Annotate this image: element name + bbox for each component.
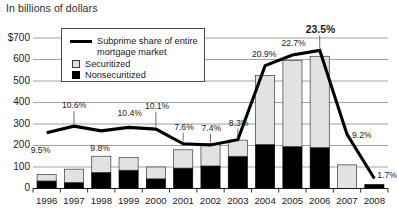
y-axis-tick-label: 200 (0, 139, 30, 150)
chart-legend: Subprime share of entire mortgage market… (61, 28, 205, 82)
x-axis-tick-label: 1997 (59, 195, 89, 206)
y-axis-tick-label: 500 (0, 75, 30, 86)
x-axis-tick-label: 2002 (196, 195, 226, 206)
bar-segment-securitized (283, 61, 302, 147)
bar-segment-nonsecuritized (37, 181, 56, 189)
bar-segment-nonsecuritized (310, 148, 329, 189)
line-value-label: 7.4% (202, 123, 222, 133)
legend-line-label-2: mortgage market (97, 47, 166, 58)
x-axis-tick-label: 1996 (32, 195, 62, 206)
securitized-swatch-icon (72, 60, 80, 68)
legend-line-label-1: Subprime share of entire (97, 36, 198, 47)
y-axis-tick-label: 600 (0, 53, 30, 64)
bar-segment-securitized (146, 167, 165, 179)
bar-segment-nonsecuritized (92, 172, 111, 188)
bar-segment-nonsecuritized (256, 144, 275, 188)
line-value-label: 9.8% (90, 143, 110, 153)
bar-segment-nonsecuritized (174, 168, 193, 188)
bar-segment-nonsecuritized (365, 185, 384, 189)
nonsecuritized-swatch-icon (72, 71, 80, 79)
line-value-label: 1.7% (377, 170, 397, 180)
legend-line-label-2-row: mortgage market (97, 47, 166, 58)
legend-nonsecuritized-label: Nonsecuritized (85, 70, 146, 81)
bar-segment-securitized (119, 157, 138, 170)
x-axis-tick-label: 2006 (305, 195, 335, 206)
bar-segment-securitized (37, 175, 56, 181)
x-axis-tick-label: 2008 (359, 195, 389, 206)
line-value-label: 9.5% (31, 145, 51, 155)
legend-item-line: Subprime share of entire (70, 36, 198, 47)
bar-segment-nonsecuritized (119, 170, 138, 188)
x-axis-ticks (33, 189, 388, 193)
x-axis-tick-label: 2003 (223, 195, 253, 206)
line-value-label: 7.6% (174, 122, 194, 132)
line-value-label: 9.2% (352, 130, 372, 140)
x-axis-tick-label: 2004 (250, 195, 280, 206)
x-axis-tick-label: 2005 (277, 195, 307, 206)
line-value-label: 10.6% (62, 100, 86, 110)
bar-segment-securitized (201, 143, 220, 166)
line-swatch-icon (70, 40, 92, 44)
bar-segment-securitized (174, 150, 193, 168)
y-axis-tick-label: 0 (0, 182, 30, 193)
line-value-label: 20.9% (252, 49, 276, 59)
line-value-label: 10.1% (145, 101, 169, 111)
line-value-label: 22.7% (281, 38, 305, 48)
x-axis-tick-label: 2007 (332, 195, 362, 206)
legend-securitized-label: Securitized (85, 59, 130, 70)
bar-segment-securitized (337, 165, 356, 189)
x-axis-tick-label: 1998 (86, 195, 116, 206)
legend-item-securitized: Securitized (72, 59, 130, 70)
y-axis-tick-label: 100 (0, 161, 30, 172)
line-value-label: 10.4% (118, 108, 142, 118)
bar-segment-nonsecuritized (228, 156, 247, 188)
y-axis-tick-label: $700 (0, 32, 30, 43)
x-axis-tick-label: 2001 (168, 195, 198, 206)
line-value-label: 8.3% (229, 118, 249, 128)
y-axis-tick-label: 300 (0, 118, 30, 129)
bar-segment-nonsecuritized (201, 166, 220, 189)
x-axis-tick-label: 1999 (114, 195, 144, 206)
bar-segment-securitized (64, 169, 83, 182)
x-axis-tick-label: 2000 (141, 195, 171, 206)
legend-item-nonsecuritized: Nonsecuritized (72, 70, 146, 81)
bar-segment-nonsecuritized (64, 182, 83, 188)
bar-segment-securitized (92, 156, 111, 172)
bar-segment-nonsecuritized (283, 147, 302, 189)
line-value-label: 23.5% (306, 24, 335, 35)
y-axis-tick-label: 400 (0, 96, 30, 107)
bar-segment-nonsecuritized (146, 179, 165, 189)
